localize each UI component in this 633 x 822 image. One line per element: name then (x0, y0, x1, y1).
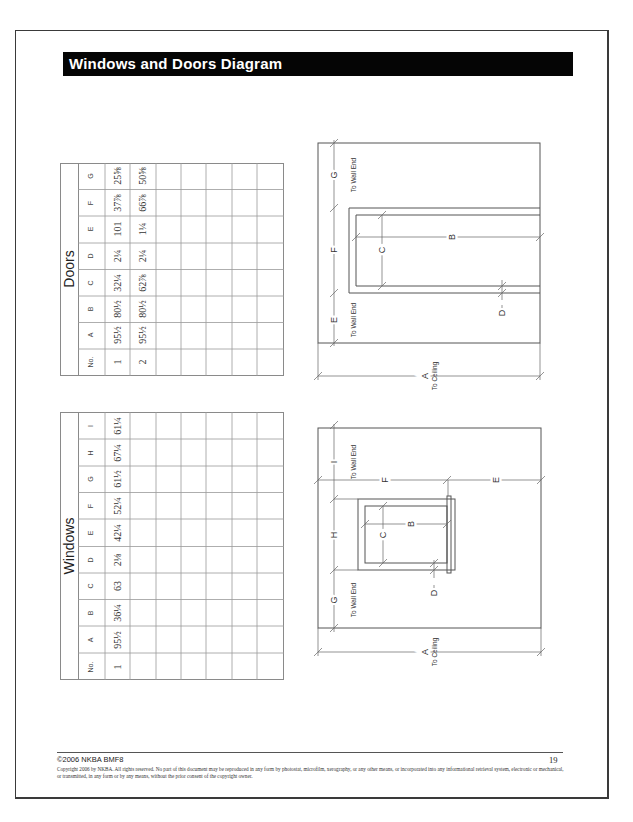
table-cell: 62⅞ (137, 274, 148, 292)
doors-table: Doors G F E D C B A No. 25⅝ 37⅞ 101 2¼ 3… (60, 163, 284, 376)
dim-label-h: H (329, 532, 339, 539)
dim-sublabel-e: To Wall End (350, 302, 357, 337)
dim-label-b: B (406, 521, 416, 527)
dim-label-i: I (329, 461, 339, 464)
dim-sublabel-i: To Wall End (350, 444, 357, 479)
dim-label-c: C (378, 531, 388, 538)
col-header: D (87, 253, 94, 258)
table-cell: 25⅝ (112, 167, 123, 185)
col-header: E (87, 530, 94, 535)
table-cell: 37⅞ (112, 194, 123, 212)
table-cell: 61¼ (112, 417, 123, 435)
col-header: A (87, 637, 94, 642)
dim-label-g: G (329, 596, 339, 603)
doors-table-title: Doors (61, 250, 77, 287)
table-cell: 80½ (112, 300, 123, 318)
table-cell: 95½ (112, 631, 123, 649)
col-header: D (87, 557, 94, 562)
table-cell: 1 (112, 360, 123, 365)
page-number: 19 (549, 755, 558, 765)
table-cell: 52¼ (112, 497, 123, 515)
col-header: H (87, 450, 94, 455)
window-diagram: I H G F E A B C D To Wall End To Wall En… (300, 410, 560, 690)
dim-label-e: E (491, 477, 501, 483)
table-cell: 32¼ (112, 274, 123, 292)
table-cell: 67¼ (112, 444, 123, 462)
col-header: F (87, 201, 94, 205)
table-cell: 50⅝ (137, 167, 148, 185)
table-cell: 2⅛ (112, 553, 123, 566)
footer-divider (57, 752, 563, 753)
door-diagram: G F E A B C D To Wall End To Wall End To… (300, 130, 560, 410)
dim-label-e: E (329, 317, 339, 323)
title-bar: Windows and Doors Diagram (63, 52, 573, 76)
table-cell: 101 (112, 222, 123, 237)
col-header: G (87, 476, 94, 481)
dim-label-b: B (447, 234, 457, 240)
col-header: B (87, 610, 94, 615)
dim-label-c: C (377, 246, 387, 253)
table-cell: 61½ (112, 470, 123, 488)
col-header: No. (87, 357, 94, 368)
table-cell: 2¼ (112, 249, 123, 262)
windows-table: Windows I H G F E D C B A No. 61¼ 67¼ 61… (60, 412, 284, 680)
table-cell: 80½ (137, 300, 148, 318)
table-cell: 1 (112, 665, 123, 670)
col-header: B (87, 306, 94, 311)
dim-sublabel-g: To Wall End (350, 157, 357, 192)
dim-label-f: F (380, 477, 390, 483)
table-cell: 95½ (137, 326, 148, 344)
windows-table-title: Windows (61, 518, 77, 575)
dim-label-a: A (420, 373, 430, 379)
dim-label-g: G (329, 171, 339, 178)
col-header: I (87, 425, 94, 427)
col-header: G (87, 173, 94, 178)
dim-label-d: D (429, 589, 439, 596)
table-cell: 66⅞ (137, 194, 148, 212)
dim-sublabel-g: To Wall End (350, 582, 357, 617)
dim-label-f: F (329, 247, 339, 253)
col-header: E (87, 226, 94, 231)
dim-sublabel-a: To Ceiling (431, 361, 439, 390)
col-header: F (87, 504, 94, 508)
table-cell: 42¼ (112, 524, 123, 542)
dim-sublabel-a: To Ceiling (431, 637, 439, 666)
col-header: C (87, 280, 94, 285)
dim-label-a: A (420, 649, 430, 655)
col-header: A (87, 332, 94, 337)
dim-label-d: D (497, 309, 507, 316)
table-cell: 63 (112, 581, 123, 591)
table-cell: 2¼ (137, 249, 148, 262)
table-cell: 36¼ (112, 604, 123, 622)
table-cell: 1¼ (137, 222, 148, 235)
col-header: C (87, 583, 94, 588)
copyright-notice: Copyright 2006 by NKBA. All rights reser… (57, 766, 567, 780)
page-title: Windows and Doors Diagram (69, 55, 282, 72)
footer-doc-id: ©2006 NKBA BMF8 (57, 755, 123, 764)
table-cell: 95½ (112, 326, 123, 344)
table-cell: 2 (137, 360, 148, 365)
col-header: No. (87, 662, 94, 673)
